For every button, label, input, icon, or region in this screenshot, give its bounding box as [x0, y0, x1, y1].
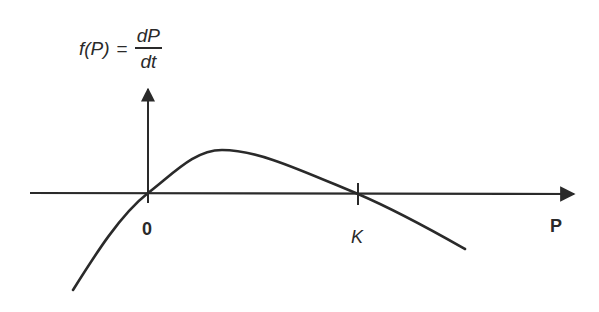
y-axis-label: f(P) = dP dt [79, 26, 162, 71]
growth-rate-curve [73, 150, 465, 290]
y-label-equals: = [117, 39, 128, 58]
y-label-lhs: f(P) [79, 39, 110, 58]
x-axis-label: P [550, 217, 562, 235]
x-axis [30, 193, 574, 194]
fraction-denominator: dt [140, 49, 156, 71]
origin-label: 0 [142, 220, 152, 238]
carrying-capacity-label: K [351, 228, 363, 246]
derivative-fraction: dP dt [135, 26, 162, 71]
fraction-numerator: dP [135, 26, 162, 49]
